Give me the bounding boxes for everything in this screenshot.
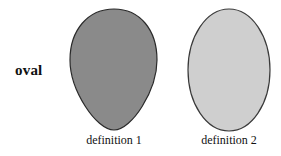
caption-definition-1: definition 1: [74, 133, 154, 148]
caption-definition-2: definition 2: [189, 133, 269, 148]
oval-definitions-figure: oval definition 1 definition 2: [0, 0, 281, 156]
ellipse-shape: [188, 9, 270, 131]
egg-shape: [70, 9, 157, 130]
row-label-oval: oval: [15, 62, 42, 79]
